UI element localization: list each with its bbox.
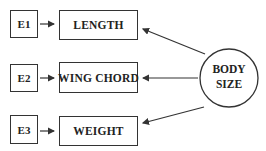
- indicator-label: WEIGHT: [73, 125, 123, 137]
- error-label: E1: [18, 18, 31, 30]
- arrow-bodysize-length: [143, 29, 205, 54]
- error-box-e2: E2: [10, 64, 38, 92]
- indicator-label: WING CHORD: [58, 72, 139, 84]
- error-label: E3: [18, 124, 31, 136]
- indicator-box-weight: WEIGHT: [59, 116, 138, 146]
- error-box-e3: E3: [10, 115, 38, 144]
- error-box-e1: E1: [10, 10, 38, 38]
- latent-label-line2: SIZE: [206, 77, 252, 92]
- error-label: E2: [18, 72, 31, 84]
- indicator-label: LENGTH: [73, 19, 123, 31]
- latent-label: BODY SIZE: [206, 62, 252, 92]
- indicator-box-wing-chord: WING CHORD: [59, 62, 138, 93]
- indicator-box-length: LENGTH: [59, 10, 138, 40]
- latent-label-line1: BODY: [206, 62, 252, 77]
- arrow-bodysize-weight: [143, 107, 204, 123]
